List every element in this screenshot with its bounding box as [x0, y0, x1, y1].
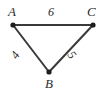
vertex-dot-a [10, 22, 15, 27]
triangle-figure: A C B 6 4 5 [0, 0, 104, 93]
triangle-edges [13, 25, 93, 72]
edge-ab [13, 25, 49, 72]
edge-bc [49, 25, 93, 72]
vertex-dot-c [90, 22, 95, 27]
vertex-label-c: C [87, 5, 96, 18]
vertex-label-b: B [45, 77, 53, 90]
vertex-label-a: A [8, 5, 16, 18]
vertex-dot-b [46, 69, 51, 74]
side-length-label-ac: 6 [48, 6, 54, 18]
